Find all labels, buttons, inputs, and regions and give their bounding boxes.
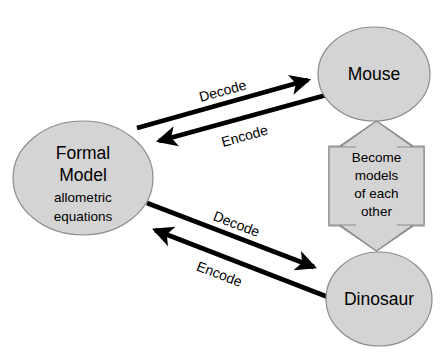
- formal-model-sublabel-line-2: equations: [54, 209, 113, 224]
- connector-decode-upper: Decode: [137, 77, 308, 128]
- become-models-line-2: models: [355, 168, 399, 183]
- diagram-root: Become models of each other Decode Encod…: [0, 0, 445, 358]
- encode-upper-label: Encode: [220, 122, 270, 150]
- node-formal-model[interactable]: Formal Model allometric equations: [13, 121, 153, 235]
- connector-encode-upper: Encode: [159, 94, 330, 150]
- node-mouse[interactable]: Mouse: [318, 27, 430, 121]
- become-models-block-arrow: Become models of each other: [329, 121, 424, 251]
- diagram-canvas: Become models of each other Decode Encod…: [0, 0, 445, 358]
- become-models-line-4: other: [361, 204, 392, 219]
- formal-model-label-line-2: Model: [59, 165, 107, 185]
- mouse-label: Mouse: [348, 64, 401, 84]
- formal-model-sublabel-line-1: allometric: [54, 190, 112, 205]
- become-models-line-1: Become: [352, 150, 402, 165]
- dinosaur-label: Dinosaur: [344, 289, 414, 309]
- node-dinosaur[interactable]: Dinosaur: [326, 252, 432, 346]
- formal-model-label-line-1: Formal: [56, 143, 110, 163]
- become-models-line-3: of each: [354, 186, 398, 201]
